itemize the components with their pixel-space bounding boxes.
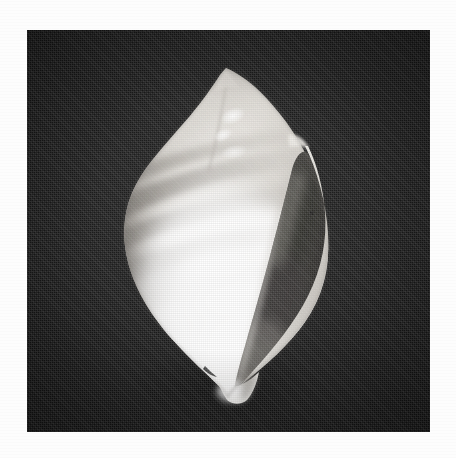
aperture-speck (310, 211, 314, 215)
photographic-plate (27, 30, 430, 432)
page-caption (0, 0, 1, 1)
seashell-illustration (27, 30, 430, 432)
page-canvas: Dark halftone-printed photographic plate (0, 0, 456, 458)
plate-description: Dark halftone-printed photographic plate (0, 0, 1, 1)
seashell-image (27, 30, 430, 432)
